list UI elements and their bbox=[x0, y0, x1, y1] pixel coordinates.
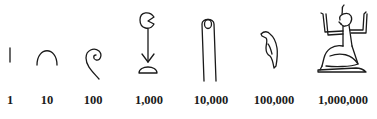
numeral-label-100000: 100,000 bbox=[254, 92, 295, 108]
numeral-label-1: 1 bbox=[7, 92, 13, 108]
lotus-plant-icon bbox=[139, 13, 157, 73]
numeral-label-1000000: 1,000,000 bbox=[318, 92, 368, 108]
heel-bone-icon bbox=[37, 51, 57, 65]
numeral-label-100: 100 bbox=[84, 92, 103, 108]
tadpole-bird-icon bbox=[261, 32, 277, 68]
numeral-label-10: 10 bbox=[41, 92, 54, 108]
finger-icon bbox=[202, 20, 216, 82]
coil-of-rope-icon bbox=[86, 49, 101, 79]
numeral-label-1000: 1,000 bbox=[135, 92, 163, 108]
kneeling-god-icon bbox=[318, 5, 367, 72]
numeral-label-10000: 10,000 bbox=[194, 92, 228, 108]
